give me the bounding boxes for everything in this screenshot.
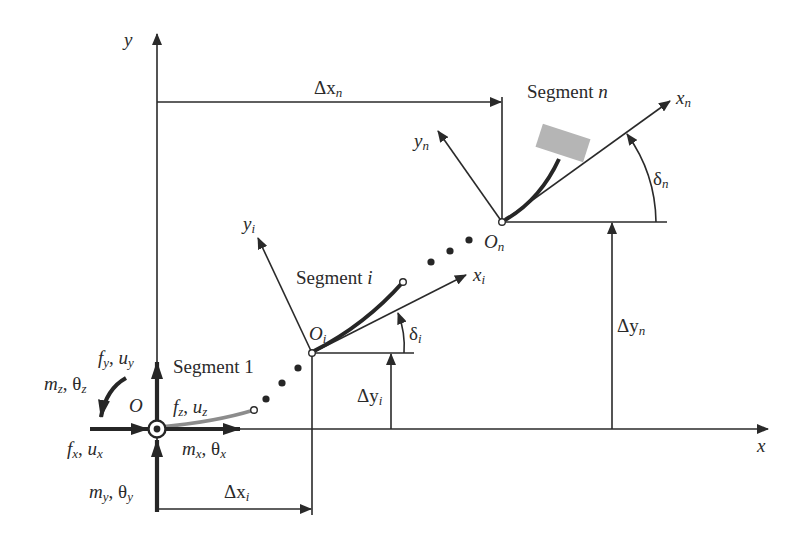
yn-axis-label: yn (412, 130, 429, 153)
fz-uz-label: fz, uz (173, 396, 207, 419)
origin-label: O (129, 395, 143, 416)
ellipsis-dots-1-to-i (262, 364, 301, 402)
x-axis-label: x (756, 435, 766, 456)
delta-yi-dimension: Δyi (357, 354, 391, 429)
delta-xi-label: Δxi (224, 481, 250, 504)
delta-yi-label: Δyi (357, 385, 383, 408)
On-origin-label: On (484, 231, 504, 254)
xi-axis-label: xi (472, 264, 485, 287)
global-y-axis: y (122, 29, 157, 512)
segment-1-label: Segment 1 (173, 356, 254, 377)
mx-thetax-label: mx, θx (182, 438, 226, 461)
segment-n-label: Segment n (527, 81, 608, 102)
global-x-axis: x (157, 429, 768, 456)
ellipsis-dots-i-to-n (427, 236, 472, 265)
fy-uy-label: fy, uy (98, 347, 134, 370)
segment-i-frame: xi yi δi Oi Segment i (241, 213, 485, 515)
my-thetay-label: my, θy (89, 481, 133, 504)
delta-yn-dimension: Δyn (612, 223, 645, 429)
delta-i-angle-label: δi (409, 323, 422, 346)
Oi-origin-label: Oi (309, 323, 327, 346)
y-axis-label: y (122, 29, 133, 50)
segment-n-end-block (536, 124, 591, 162)
fx-ux-label: fx, ux (67, 438, 103, 461)
xn-axis-label: xn (675, 87, 691, 110)
mz-thetaz-label: mz, θz (44, 373, 86, 396)
delta-xi-dimension: Δxi (157, 481, 311, 509)
yi-axis-label: yi (241, 213, 255, 236)
delta-xn-label: Δxn (314, 77, 342, 100)
segment-coordinate-diagram: y x Δxn xn yn δn On Segment n Δyn (0, 0, 807, 540)
segment-n-frame: xn yn δn On Segment n (412, 81, 691, 254)
delta-yn-label: Δyn (617, 315, 645, 338)
segment-i-label: Segment i (296, 267, 373, 288)
delta-n-angle-label: δn (653, 168, 668, 191)
